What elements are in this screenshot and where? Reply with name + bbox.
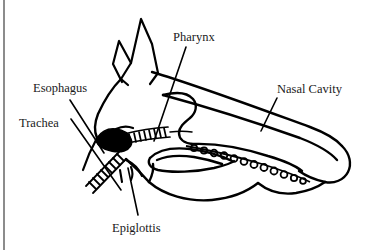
- trachea-ring: [97, 174, 104, 181]
- pharynx-ring: [149, 130, 151, 139]
- upper-lip-contour: [299, 171, 325, 182]
- trachea-ring: [93, 178, 100, 185]
- pharynx-continuation: [170, 131, 192, 132]
- tongue-inner-fold: [157, 156, 222, 164]
- trachea-ring: [117, 154, 124, 161]
- tongue-outline: [149, 148, 234, 171]
- label-epiglottis: Epiglottis: [112, 222, 161, 235]
- epiglottis-tick-short: [131, 167, 133, 180]
- throat-lower-contour: [149, 182, 258, 200]
- figure-page: Esophagus Trachea Pharynx Nasal Cavity E…: [0, 0, 369, 250]
- trachea-ring: [89, 182, 96, 189]
- ear-group: [113, 19, 158, 85]
- bead: [300, 178, 306, 184]
- trachea-ring: [109, 162, 116, 169]
- soft-palate-upper: [192, 144, 302, 171]
- larynx-tail: [116, 127, 133, 129]
- label-nasal-cavity: Nasal Cavity: [277, 83, 342, 96]
- pharynx-ring: [139, 132, 141, 141]
- pharynx-ring: [164, 128, 166, 137]
- pharynx-ring: [134, 133, 136, 142]
- leader-line-esophagus: [70, 100, 104, 153]
- pharynx-ring: [159, 129, 161, 138]
- epiglottis-tick-long: [120, 170, 122, 182]
- trachea-ring: [113, 158, 120, 165]
- pharynx-lower-wall: [127, 137, 170, 143]
- pharynx-ring: [144, 131, 146, 140]
- rear-ear-outline: [121, 19, 158, 84]
- label-trachea: Trachea: [19, 117, 59, 130]
- label-esophagus: Esophagus: [33, 82, 87, 95]
- chin-contour: [258, 182, 325, 194]
- label-pharynx: Pharynx: [173, 31, 215, 44]
